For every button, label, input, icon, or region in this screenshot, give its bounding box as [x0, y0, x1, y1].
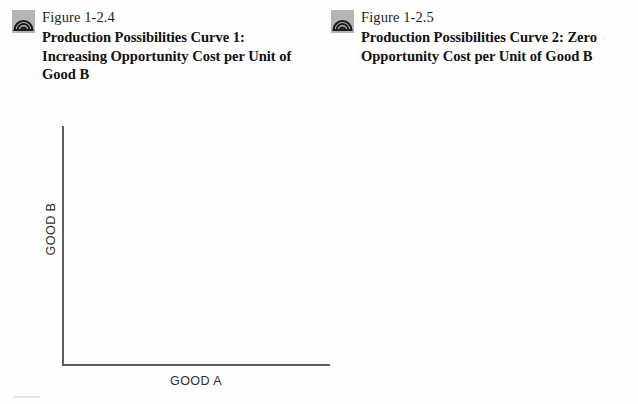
scan-artifact [14, 396, 40, 398]
figure-caption: Figure 1-2.5 [361, 9, 627, 25]
figure-page: Figure 1-2.4 Production Possibilities Cu… [0, 0, 638, 404]
rainbow-arch-icon [12, 10, 35, 33]
figure-title: Production Possibilities Curve 1: Increa… [42, 28, 310, 84]
x-axis-line [62, 364, 330, 366]
chart-plot-area: GOOD B GOOD A [62, 126, 330, 366]
figure-caption: Figure 1-2.4 [42, 9, 308, 25]
y-axis-line [62, 126, 64, 366]
figure-1-2-5: Figure 1-2.5 Production Possibilities Cu… [319, 0, 638, 404]
rainbow-arch-icon [331, 10, 354, 33]
y-axis-label: GOOD B [44, 184, 58, 274]
figure-title: Production Possibilities Curve 2: Zero O… [361, 28, 629, 65]
figure-header: Figure 1-2.4 Production Possibilities Cu… [12, 9, 308, 84]
figure-header: Figure 1-2.5 Production Possibilities Cu… [331, 9, 627, 65]
figure-1-2-4: Figure 1-2.4 Production Possibilities Cu… [0, 0, 319, 404]
x-axis-label: GOOD A [62, 374, 330, 388]
